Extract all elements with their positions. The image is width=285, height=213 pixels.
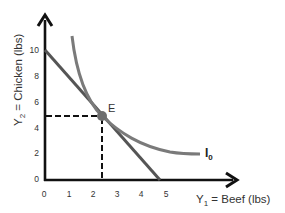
x-tick: 3 — [115, 189, 120, 199]
y-tick: 2 — [34, 148, 39, 158]
indifference-curve-chart: 10 8 6 4 2 0 0 1 2 3 4 5 Y1 = Beef (lbs)… — [0, 0, 285, 213]
point-e-label: E — [108, 102, 115, 114]
y-tick: 6 — [34, 97, 39, 107]
y-tick-labels: 10 8 6 4 2 0 — [30, 45, 40, 184]
x-axis-label: Y1 = Beef (lbs) — [196, 193, 271, 208]
y-tick: 4 — [34, 123, 39, 133]
y-tick: 10 — [30, 45, 40, 55]
y-axis-label: Y2 = Chicken (lbs) — [12, 33, 27, 126]
x-tick: 1 — [67, 189, 72, 199]
curve-i0-label: I0 — [205, 146, 213, 162]
x-tick: 0 — [42, 189, 47, 199]
x-tick-labels: 0 1 2 3 4 5 — [42, 189, 169, 199]
y-tick: 8 — [34, 71, 39, 81]
x-tick: 4 — [139, 189, 144, 199]
axes — [38, 15, 237, 187]
x-tick: 5 — [164, 189, 169, 199]
x-tick: 2 — [91, 189, 96, 199]
y-tick: 0 — [34, 174, 39, 184]
indifference-curve-i0 — [72, 36, 200, 154]
equilibrium-point-e — [97, 111, 107, 121]
